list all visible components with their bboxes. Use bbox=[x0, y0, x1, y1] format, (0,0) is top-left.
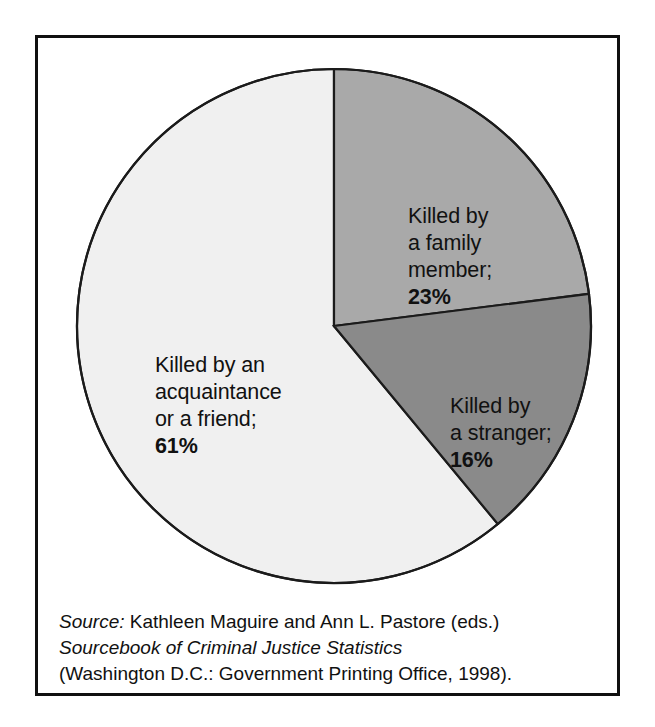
source-note-title: Sourcebook of Criminal Justice Statistic… bbox=[59, 635, 604, 661]
pie-label-family-member-percent: 23% bbox=[408, 284, 568, 311]
figure-root: Killed by a family member; 23% Killed by… bbox=[0, 0, 655, 727]
source-note-label: Source: bbox=[59, 611, 124, 632]
pie-label-stranger-percent: 16% bbox=[450, 447, 610, 474]
pie-label-acquaintance-or-friend-text: Killed by an acquaintance or a friend; bbox=[155, 353, 282, 431]
pie-label-acquaintance-or-friend: Killed by an acquaintance or a friend; 6… bbox=[155, 325, 370, 487]
pie-chart: Killed by a family member; 23% Killed by… bbox=[38, 38, 617, 598]
pie-label-acquaintance-or-friend-percent: 61% bbox=[155, 433, 370, 460]
source-note-line-1: Source: Kathleen Maguire and Ann L. Past… bbox=[59, 609, 604, 635]
source-note-authors: Kathleen Maguire and Ann L. Pastore (eds… bbox=[124, 611, 499, 632]
pie-label-stranger: Killed by a stranger; 16% bbox=[450, 366, 610, 501]
pie-label-family-member-text: Killed by a family member; bbox=[408, 204, 492, 282]
source-note-publisher: (Washington D.C.: Government Printing Of… bbox=[59, 661, 604, 687]
pie-label-family-member: Killed by a family member; 23% bbox=[408, 176, 568, 338]
pie-label-stranger-text: Killed by a stranger; bbox=[450, 394, 552, 445]
figure-frame: Killed by a family member; 23% Killed by… bbox=[35, 35, 620, 696]
source-note: Source: Kathleen Maguire and Ann L. Past… bbox=[59, 609, 604, 687]
